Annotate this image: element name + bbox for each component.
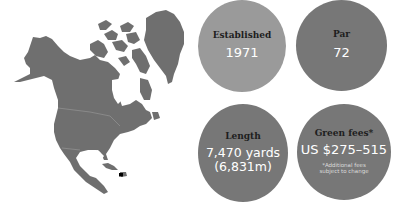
stat-value-metres: (6,831m)	[206, 160, 280, 174]
stat-value-yards: 7,470 yards	[206, 146, 280, 160]
stat-established: Established 1971	[198, 0, 286, 92]
note-line: subject to change	[319, 168, 368, 175]
stat-value: 7,470 yards (6,831m)	[206, 146, 280, 175]
stat-length: Length 7,470 yards (6,831m)	[198, 104, 288, 202]
location-marker-icon	[119, 173, 123, 177]
stat-green-fees: Green fees* US $275–515 *Additional fees…	[297, 104, 391, 200]
stat-label: Green fees*	[315, 129, 374, 139]
stat-value: 72	[333, 46, 350, 61]
stat-label: Par	[333, 30, 350, 40]
land-mass	[14, 10, 184, 194]
note-line: *Additional fees	[319, 162, 368, 169]
stat-par: Par 72	[296, 0, 387, 91]
stat-value: US $275–515	[301, 143, 387, 158]
stat-label: Established	[213, 31, 272, 41]
stat-value: 1971	[225, 46, 258, 61]
stat-note: *Additional fees subject to change	[319, 162, 368, 176]
north-america-map	[0, 0, 200, 212]
stat-label: Length	[225, 132, 261, 142]
